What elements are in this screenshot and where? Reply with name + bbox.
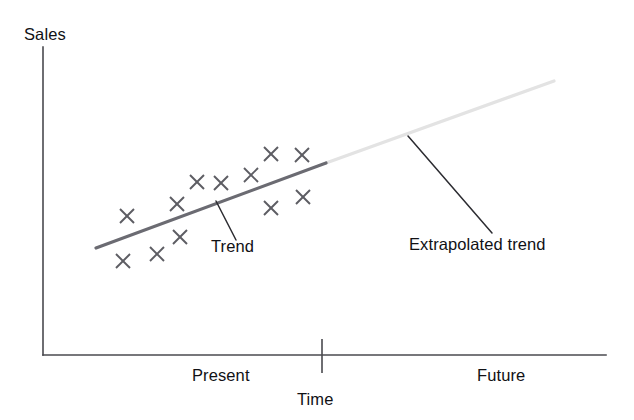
chart-canvas <box>0 0 634 420</box>
y-axis-title: Sales <box>24 26 66 43</box>
trend-extrapolation-figure: Sales Trend Extrapolated trend Present T… <box>0 0 634 420</box>
data-point-cross <box>170 197 184 211</box>
extrapolated-trend-callout-label: Extrapolated trend <box>409 236 546 253</box>
data-point-cross <box>150 247 164 261</box>
trend-line <box>96 163 326 248</box>
data-point-cross <box>244 168 258 182</box>
future-region-label: Future <box>477 367 525 384</box>
extrapolated-trend-leader-line <box>408 136 492 233</box>
data-point-cross <box>264 201 278 215</box>
data-point-cross <box>295 148 309 162</box>
data-point-cross <box>116 254 130 268</box>
data-point-cross <box>120 209 134 223</box>
data-point-cross <box>296 190 310 204</box>
data-point-cross <box>264 147 278 161</box>
trend-callout-label: Trend <box>211 238 254 255</box>
extrapolated-trend-line <box>326 81 554 163</box>
present-region-label: Present <box>192 367 250 384</box>
data-point-cross <box>173 230 187 244</box>
data-point-cross <box>190 175 204 189</box>
trend-leader-line <box>216 201 236 240</box>
data-point-cross <box>214 176 228 190</box>
x-axis-title: Time <box>297 391 333 408</box>
